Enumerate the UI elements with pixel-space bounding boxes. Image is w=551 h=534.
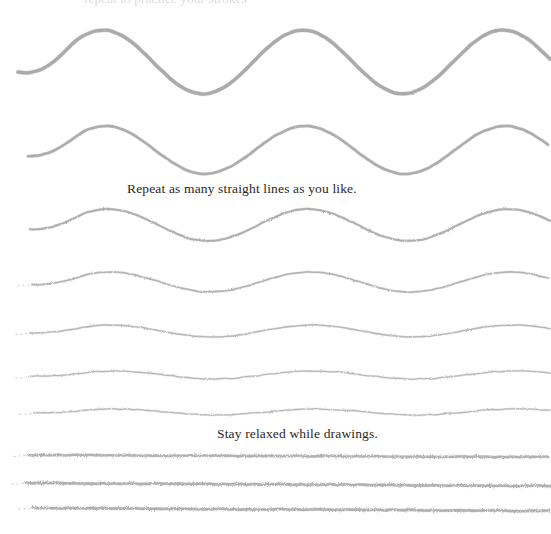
caption-repeat-straight-lines: Repeat as many straight lines as you lik… xyxy=(127,182,357,196)
stroke-leadin-line-8 xyxy=(14,456,26,457)
stroke-underlay-wave-1 xyxy=(18,30,550,94)
stroke-underlay-wave-3 xyxy=(30,209,550,241)
stroke-wave-5 xyxy=(30,325,550,337)
stroke-leadin-wave-4 xyxy=(18,285,30,286)
stroke-leadin-wave-5 xyxy=(16,334,28,335)
stroke-wave-1 xyxy=(18,30,550,94)
stroke-leadin-wave-7 xyxy=(20,414,32,415)
stroke-leadin-wave-6 xyxy=(16,377,28,378)
practice-sheet-page: repeat to practice your strokes Repeat a… xyxy=(0,0,551,534)
stroke-underlay-wave-4 xyxy=(32,272,548,292)
stroke-wave-2 xyxy=(28,126,548,174)
stroke-leadin-line-9 xyxy=(12,483,24,484)
stroke-underlay-wave-2 xyxy=(28,126,548,174)
stroke-wave-3 xyxy=(30,209,550,241)
pencil-stroke-canvas xyxy=(0,0,551,534)
caption-stay-relaxed: Stay relaxed while drawings. xyxy=(217,427,378,441)
stroke-leadin-line-10 xyxy=(19,508,31,509)
